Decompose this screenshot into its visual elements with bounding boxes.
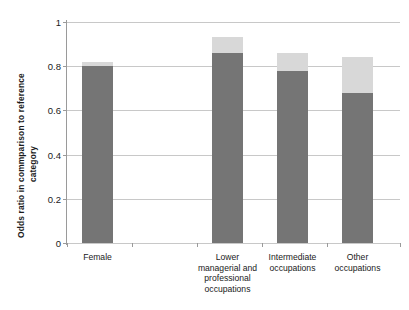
y-tick-mark: [63, 155, 67, 156]
y-tick-label: 0.8: [48, 61, 61, 72]
y-tick-label: 0.4: [48, 149, 61, 160]
x-tick-mark: [67, 243, 68, 247]
bar-segment-upper: [277, 53, 308, 71]
x-tick-mark: [400, 243, 401, 247]
y-tick-label: 0: [56, 238, 61, 249]
y-tick-label: 0.6: [48, 105, 61, 116]
bar: [212, 37, 243, 243]
x-axis-category-label-line: Female: [55, 252, 141, 263]
bar-segment-upper: [212, 37, 243, 52]
y-tick-label: 1: [56, 17, 61, 28]
plot-area: 00.20.40.60.81: [67, 22, 400, 243]
bar-segment-upper: [342, 57, 373, 92]
gridline: [67, 243, 400, 244]
x-axis-category-label: Female: [55, 252, 141, 263]
y-tick-mark: [63, 199, 67, 200]
x-tick-mark: [262, 243, 263, 247]
bar-segment-lower: [277, 71, 308, 243]
x-tick-mark: [132, 243, 133, 247]
bar: [82, 62, 113, 243]
bar-segment-lower: [212, 53, 243, 243]
y-tick-mark: [63, 22, 67, 23]
bar-chart: Odds ratio in commparison to reference c…: [0, 0, 409, 310]
x-tick-mark: [327, 243, 328, 247]
y-tick-mark: [63, 110, 67, 111]
y-axis-title: Odds ratio in commparison to reference c…: [0, 0, 40, 250]
x-axis-category-label-line: Other: [315, 252, 401, 263]
y-axis-title-line-2: category: [28, 146, 38, 182]
bar: [277, 53, 308, 243]
bar-segment-lower: [342, 93, 373, 243]
y-tick-mark: [63, 66, 67, 67]
bar: [342, 57, 373, 243]
x-axis-category-label-line: occupations: [185, 284, 271, 295]
y-axis-title-line-1: Odds ratio in commparison to reference: [16, 73, 26, 238]
x-axis-category-label-line: occupations: [315, 263, 401, 274]
gridline: [67, 22, 400, 23]
bar-segment-lower: [82, 66, 113, 243]
y-tick-label: 0.2: [48, 193, 61, 204]
x-axis-category-label: Otheroccupations: [315, 252, 401, 273]
x-axis-category-label-line: professional: [185, 273, 271, 284]
x-tick-mark: [197, 243, 198, 247]
